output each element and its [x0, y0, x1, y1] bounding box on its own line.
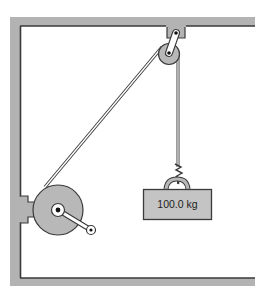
weight-label: 100.0 kg — [157, 198, 197, 210]
pivot-pin-icon — [174, 31, 178, 35]
hook — [166, 164, 188, 189]
crank-knob-icon — [89, 228, 92, 231]
drum-axle-icon — [56, 208, 61, 213]
pulley-winch-diagram: 100.0 kg — [0, 0, 268, 300]
frame — [10, 17, 255, 286]
weight: 100.0 kg — [144, 190, 212, 220]
axle-pin-icon — [167, 51, 171, 55]
rope — [45, 47, 178, 187]
